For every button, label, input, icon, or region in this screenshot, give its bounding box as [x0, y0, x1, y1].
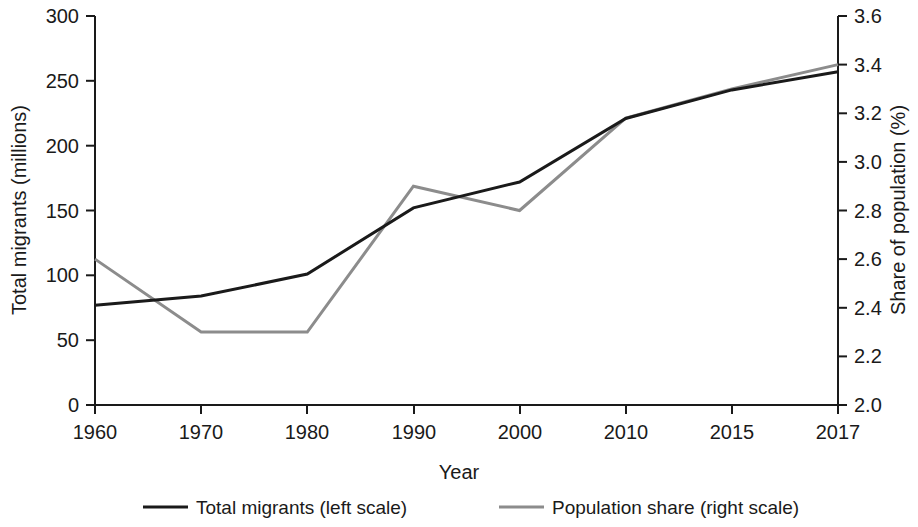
- x-tick-label-1960: 1960: [73, 421, 118, 443]
- x-tick-label-1990: 1990: [392, 421, 437, 443]
- right-tick-label-2-0: 2.0: [854, 394, 882, 416]
- x-tick-label-1980: 1980: [285, 421, 330, 443]
- right-tick-label-3-0: 3.0: [854, 151, 882, 173]
- right-y-axis: 3.6 3.4 3.2 3.0 2.8 2.6 2.4 2.2 2.0 Shar…: [838, 5, 909, 416]
- x-tick-label-2015: 2015: [710, 421, 755, 443]
- series-line-total-migrants: [95, 72, 838, 305]
- right-tick-label-3-4: 3.4: [854, 54, 882, 76]
- x-axis: 1960 1970 1980 1990 2000 2010 2015 2017 …: [73, 405, 861, 483]
- x-axis-ticks: [95, 405, 838, 414]
- x-tick-label-1970: 1970: [179, 421, 224, 443]
- right-tick-label-2-4: 2.4: [854, 297, 882, 319]
- left-axis-title: Total migrants (millions): [8, 105, 30, 315]
- x-tick-label-2000: 2000: [498, 421, 543, 443]
- plot-series: [95, 65, 838, 332]
- legend-item-total-migrants: Total migrants (left scale): [143, 497, 407, 518]
- left-tick-label-100: 100: [46, 264, 79, 286]
- right-axis-ticks: [838, 16, 847, 405]
- right-axis-tick-labels: 3.6 3.4 3.2 3.0 2.8 2.6 2.4 2.2 2.0: [854, 5, 882, 416]
- left-tick-label-250: 250: [46, 70, 79, 92]
- right-tick-label-3-6: 3.6: [854, 5, 882, 27]
- legend-label-total-migrants: Total migrants (left scale): [196, 497, 407, 518]
- x-tick-label-2017: 2017: [816, 421, 861, 443]
- left-tick-label-50: 50: [57, 329, 79, 351]
- x-axis-tick-labels: 1960 1970 1980 1990 2000 2010 2015 2017: [73, 421, 861, 443]
- x-axis-title: Year: [439, 461, 480, 483]
- right-tick-label-3-2: 3.2: [854, 102, 882, 124]
- legend: Total migrants (left scale) Population s…: [143, 497, 799, 518]
- left-axis-tick-labels: 300 250 200 150 100 50 0: [46, 5, 79, 416]
- x-tick-label-2010: 2010: [604, 421, 649, 443]
- right-tick-label-2-2: 2.2: [854, 345, 882, 367]
- legend-label-population-share: Population share (right scale): [552, 497, 799, 518]
- left-y-axis: 300 250 200 150 100 50 0 Total migrants …: [8, 5, 95, 416]
- left-axis-ticks: [86, 16, 95, 405]
- left-tick-label-0: 0: [68, 394, 79, 416]
- right-tick-label-2-6: 2.6: [854, 248, 882, 270]
- left-tick-label-200: 200: [46, 135, 79, 157]
- migration-line-chart: 300 250 200 150 100 50 0 Total migrants …: [0, 0, 918, 527]
- right-axis-title: Share of population (%): [887, 105, 909, 315]
- left-tick-label-300: 300: [46, 5, 79, 27]
- left-tick-label-150: 150: [46, 200, 79, 222]
- right-tick-label-2-8: 2.8: [854, 200, 882, 222]
- series-line-population-share: [95, 65, 838, 332]
- legend-item-population-share: Population share (right scale): [499, 497, 799, 518]
